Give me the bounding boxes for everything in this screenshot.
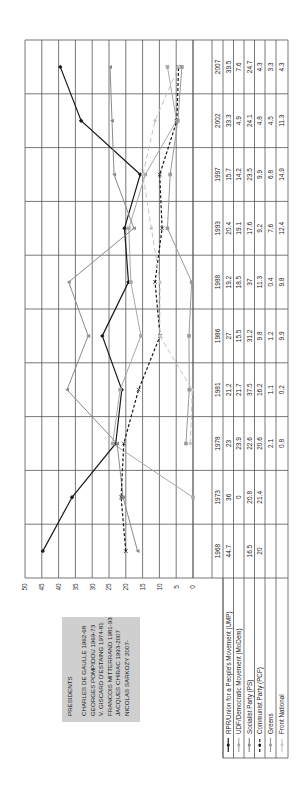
y-tick-label: 15 bbox=[139, 583, 146, 591]
y-tick-label: 35 bbox=[72, 583, 79, 591]
table-cell: 2.1 bbox=[267, 439, 274, 448]
y-tick-label: 0 bbox=[189, 585, 196, 589]
table-cell: 0 bbox=[235, 495, 242, 499]
table-cell: 12.4 bbox=[278, 222, 285, 235]
table-cell: 33.3 bbox=[225, 114, 232, 127]
table-cell: 21.4 bbox=[256, 491, 263, 504]
table-cell: 15.7 bbox=[225, 168, 232, 181]
legend-label: Greens bbox=[267, 713, 274, 734]
table-cell: 20 bbox=[256, 547, 263, 555]
president-entry: FRANCOIS MITTERRAND 1981-93 bbox=[106, 617, 113, 716]
table-year-header: 1978 bbox=[214, 436, 221, 451]
table-cell: 18.5 bbox=[235, 275, 242, 288]
table-cell: 0.8 bbox=[278, 439, 285, 448]
table-cell: 37 bbox=[246, 278, 253, 286]
y-tick-label: 25 bbox=[105, 583, 112, 591]
table-year-header: 2002 bbox=[214, 113, 221, 128]
president-entry: V. GISCARD D'ESTAING 1974-81 bbox=[97, 622, 104, 716]
president-entry: CHARLES DE GAULLE 1962-68 bbox=[80, 625, 87, 716]
table-cell: 23.9 bbox=[235, 437, 242, 450]
table-cell: 9.8 bbox=[256, 331, 263, 340]
table-cell: 21.2 bbox=[225, 383, 232, 396]
table-cell: 11.3 bbox=[256, 276, 263, 289]
table-cell: 44.7 bbox=[225, 544, 232, 557]
y-tick-label: 5 bbox=[173, 585, 180, 589]
table-year-header: 2007 bbox=[214, 59, 221, 74]
table-cell: 9.9 bbox=[256, 170, 263, 179]
table-cell: 14.9 bbox=[278, 168, 285, 181]
table-year-header: 1973 bbox=[214, 490, 221, 505]
table-year-header: 1988 bbox=[214, 274, 221, 289]
table-cell: 19.1 bbox=[235, 222, 242, 235]
table-cell: 7.6 bbox=[267, 223, 274, 232]
table-cell: 31.2 bbox=[246, 329, 253, 342]
table-cell: 1.2 bbox=[267, 331, 274, 340]
y-tick-label: 10 bbox=[156, 583, 163, 591]
table-cell: 17.6 bbox=[246, 222, 253, 235]
table-cell: 16.2 bbox=[256, 383, 263, 396]
table-cell: 4.9 bbox=[235, 116, 242, 125]
table-cell: 9.9 bbox=[278, 331, 285, 340]
y-tick-label: 40 bbox=[55, 583, 62, 591]
y-tick-label: 20 bbox=[122, 583, 129, 591]
table-cell: 0.2 bbox=[278, 385, 285, 394]
legend-label: Communist Party (PCF) bbox=[256, 667, 264, 734]
y-tick-label: 50 bbox=[21, 583, 28, 591]
table-cell: 0.4 bbox=[267, 277, 274, 286]
president-entry: NICOLAS SARKOZY 2007- bbox=[123, 640, 130, 716]
legend-label: Socialist Party (PS) bbox=[246, 680, 254, 734]
table-cell: 20.4 bbox=[225, 222, 232, 235]
table-cell: 6.8 bbox=[267, 170, 274, 179]
y-tick-label: 45 bbox=[38, 583, 45, 591]
table-cell: 36 bbox=[225, 493, 232, 501]
table-cell: 7.6 bbox=[235, 62, 242, 71]
table-cell: 24.1 bbox=[246, 114, 253, 127]
chart-series bbox=[41, 65, 284, 752]
table-cell: 20.6 bbox=[256, 437, 263, 450]
legend-label: Front National bbox=[278, 694, 285, 734]
table-cell: 23 bbox=[225, 440, 232, 448]
table-cell: 19.2 bbox=[225, 275, 232, 288]
table-cell: 22.6 bbox=[246, 437, 253, 450]
table-cell: 39.5 bbox=[225, 60, 232, 73]
table-year-header: 1993 bbox=[214, 221, 221, 236]
table-year-header: 1981 bbox=[214, 382, 221, 397]
table-cell: 20.8 bbox=[246, 491, 253, 504]
legend-label: RPR/Union for a People's Movement (UMP) bbox=[225, 611, 233, 734]
legend-label: UDF/Democratic Movement (MoDem) bbox=[235, 628, 243, 734]
table-cell: 21.7 bbox=[235, 383, 242, 396]
table-cell: 24.7 bbox=[246, 60, 253, 73]
table-year-header: 1968 bbox=[214, 543, 221, 558]
table-cell: 9.2 bbox=[256, 223, 263, 232]
president-entry: JACQUES CHIRAC 1993-2007 bbox=[114, 629, 121, 716]
table-year-header: 1986 bbox=[214, 328, 221, 343]
table-cell: 23.5 bbox=[246, 168, 253, 181]
table-year-header: 1997 bbox=[214, 167, 221, 182]
table-cell: 9.8 bbox=[278, 277, 285, 286]
table-cell: 1.1 bbox=[267, 385, 274, 394]
table-cell: 14.2 bbox=[235, 168, 242, 181]
table-cell: 4.3 bbox=[256, 62, 263, 71]
table-cell: 3.3 bbox=[267, 62, 274, 71]
president-entry: GEORGES POMPIDOU 1969-73 bbox=[89, 624, 96, 716]
table-cell: 4.5 bbox=[267, 116, 274, 125]
table-cell: 4.3 bbox=[278, 62, 285, 71]
table-cell: 4.8 bbox=[256, 116, 263, 125]
y-tick-label: 30 bbox=[89, 583, 96, 591]
presidents-title: PRESIDENTS bbox=[66, 676, 73, 716]
table-cell: 16.5 bbox=[246, 544, 253, 557]
election-results-chart: 0510152025303540455019681973197819811986… bbox=[0, 0, 302, 791]
table-cell: 27 bbox=[225, 332, 232, 340]
table-cell: 37.5 bbox=[246, 383, 253, 396]
table-cell: 11.3 bbox=[278, 114, 285, 127]
table-cell: 15.5 bbox=[235, 329, 242, 342]
